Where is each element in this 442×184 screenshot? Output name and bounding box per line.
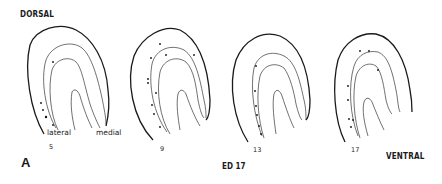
- stage-label: ED 17: [222, 161, 246, 171]
- panel-letter: A: [21, 155, 30, 170]
- lateral-label: lateral: [47, 128, 71, 137]
- section-9-drawing: [131, 28, 210, 140]
- section-17-drawing: [335, 34, 412, 142]
- section-number-9: 9: [160, 145, 164, 153]
- medial-label: medial: [96, 128, 121, 137]
- section-number-5: 5: [49, 143, 53, 151]
- section-13-drawing: [232, 34, 310, 142]
- section-outlines: [0, 0, 442, 184]
- section-number-17: 17: [351, 146, 359, 154]
- section-5-drawing: [28, 26, 109, 134]
- section-number-13: 13: [253, 146, 261, 154]
- ventral-label: VENTRAL: [386, 151, 424, 161]
